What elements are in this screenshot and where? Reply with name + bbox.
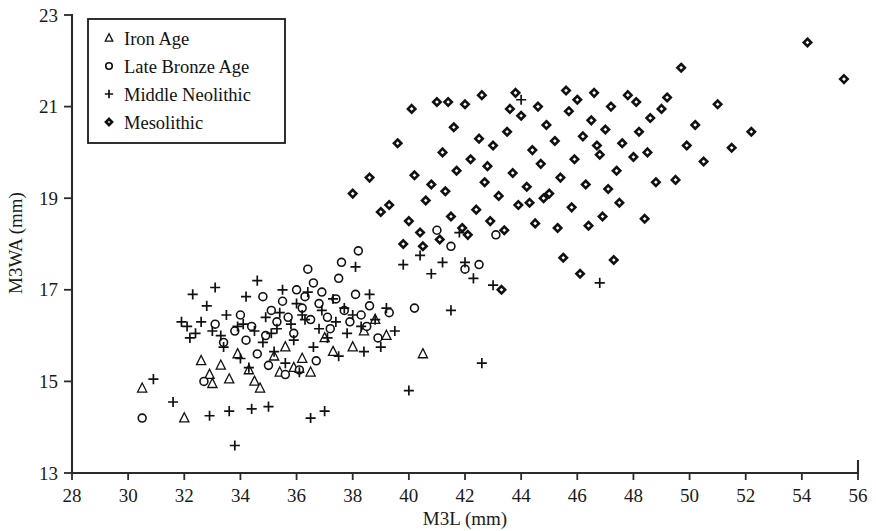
marker-plus [595, 278, 605, 288]
marker-diamond [526, 199, 533, 206]
x-tick-label: 54 [792, 485, 812, 506]
marker-diamond [377, 208, 384, 215]
marker-diamond [551, 137, 558, 144]
marker-diamond [495, 192, 502, 199]
marker-circle [318, 288, 326, 296]
marker-circle [304, 265, 312, 273]
x-tick-label: 30 [119, 485, 138, 506]
marker-diamond [405, 217, 412, 224]
marker-circle [200, 377, 208, 385]
marker-diamond [590, 89, 597, 96]
marker-plus [272, 324, 282, 334]
marker-triangle [382, 330, 391, 339]
marker-triangle [250, 376, 259, 385]
marker-diamond [748, 128, 755, 135]
x-tick-label: 34 [231, 485, 251, 506]
marker-circle [447, 242, 455, 250]
marker-diamond [557, 174, 564, 181]
marker-diamond [411, 172, 418, 179]
marker-diamond [599, 213, 606, 220]
legend-entry-label: Iron Age [124, 29, 189, 49]
marker-plus [320, 406, 330, 416]
marker-circle [411, 304, 419, 312]
marker-diamond [574, 96, 581, 103]
marker-triangle [418, 349, 427, 358]
marker-circle [312, 357, 320, 365]
marker-plus [280, 358, 290, 368]
marker-diamond [349, 190, 356, 197]
marker-plus [359, 347, 369, 357]
marker-plus [224, 406, 234, 416]
marker-diamond [677, 64, 684, 71]
marker-circle [138, 414, 146, 422]
marker-diamond [481, 178, 488, 185]
marker-triangle [281, 342, 290, 351]
x-tick-label: 42 [456, 485, 475, 506]
marker-plus [230, 440, 240, 450]
marker-diamond [616, 199, 623, 206]
marker-plus [342, 328, 352, 338]
marker-diamond [509, 169, 516, 176]
legend-entry-label: Late Bronze Age [124, 57, 249, 77]
x-tick-label: 46 [568, 485, 587, 506]
marker-circle [242, 336, 250, 344]
marker-diamond [607, 103, 614, 110]
y-tick-label: 17 [39, 279, 58, 300]
x-tick-label: 48 [624, 485, 643, 506]
marker-diamond [453, 167, 460, 174]
marker-diamond [473, 206, 480, 213]
marker-plus [252, 276, 262, 286]
x-tick-label: 52 [736, 485, 755, 506]
marker-triangle [348, 342, 357, 351]
marker-diamond [630, 153, 637, 160]
marker-diamond [554, 224, 561, 231]
marker-plus [308, 342, 318, 352]
legend-entry-label: Mesolithic [124, 113, 203, 133]
marker-diamond [458, 224, 465, 231]
marker-diamond [672, 176, 679, 183]
marker-diamond [517, 112, 524, 119]
marker-diamond [515, 201, 522, 208]
marker-diamond [436, 236, 443, 243]
marker-plus [210, 282, 220, 292]
marker-diamond [531, 220, 538, 227]
x-tick-label: 50 [680, 485, 699, 506]
marker-circle [335, 274, 343, 282]
x-tick-label: 44 [512, 485, 532, 506]
marker-triangle [328, 346, 337, 355]
marker-diamond [442, 188, 449, 195]
marker-circle [267, 306, 275, 314]
marker-circle [265, 361, 273, 369]
marker-diamond [579, 133, 586, 140]
marker-diamond [624, 91, 631, 98]
marker-diamond [433, 98, 440, 105]
legend-entry-label: Middle Neolithic [124, 85, 251, 105]
marker-diamond [604, 185, 611, 192]
marker-plus [238, 319, 248, 329]
marker-diamond [613, 167, 620, 174]
marker-diamond [419, 243, 426, 250]
marker-plus [190, 328, 200, 338]
series-middle-neolithic [148, 95, 604, 451]
marker-diamond [840, 75, 847, 82]
chart-legend: Iron AgeLate Bronze AgeMiddle NeolithicM… [88, 19, 285, 143]
plot-canvas: 2830323436384042444648505254561315171921… [0, 0, 876, 531]
marker-diamond [512, 89, 519, 96]
y-tick-label: 19 [39, 188, 58, 209]
marker-diamond [658, 105, 665, 112]
marker-plus [168, 397, 178, 407]
marker-triangle [216, 360, 225, 369]
marker-plus [390, 326, 400, 336]
marker-diamond [560, 254, 567, 261]
marker-circle [374, 334, 382, 342]
marker-circle [492, 231, 500, 239]
marker-diamond [562, 87, 569, 94]
marker-plus [468, 273, 478, 283]
marker-circle [354, 247, 362, 255]
marker-diamond [444, 98, 451, 105]
marker-diamond [593, 142, 600, 149]
x-axis-title: M3L (mm) [423, 508, 507, 530]
marker-triangle [197, 356, 206, 365]
marker-diamond [386, 201, 393, 208]
marker-circle [293, 286, 301, 294]
